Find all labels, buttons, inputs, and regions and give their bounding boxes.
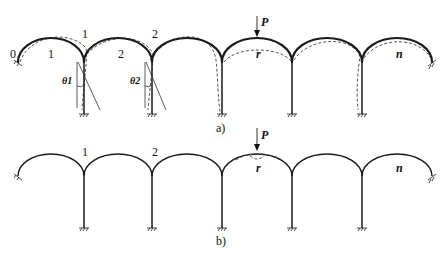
span-label-r: r bbox=[256, 161, 261, 175]
node-label-0: 0 bbox=[10, 47, 16, 61]
fixed-supports bbox=[14, 174, 436, 231]
angle-label-theta1: θ1 bbox=[62, 75, 72, 86]
arch-span-1 bbox=[18, 154, 84, 176]
span-label-n: n bbox=[396, 161, 403, 175]
arch-span-2 bbox=[84, 154, 152, 176]
fixed-support-icon bbox=[79, 114, 89, 117]
node-label-2: 2 bbox=[152, 145, 158, 159]
span-label-2: 2 bbox=[118, 47, 124, 61]
fixed-support-icon bbox=[217, 228, 227, 231]
columns bbox=[84, 62, 362, 114]
fixed-support-icon bbox=[79, 228, 89, 231]
fixed-support-icon bbox=[147, 114, 157, 117]
node-label-1: 1 bbox=[82, 27, 88, 41]
panel-a: 0 1 2 1 2 r n θ1 θ2 P a) bbox=[10, 15, 436, 135]
fixed-support-icon bbox=[357, 114, 367, 117]
span-label-n: n bbox=[396, 47, 403, 61]
angle-label-theta2: θ2 bbox=[130, 75, 140, 86]
arch-span-3 bbox=[152, 154, 222, 176]
local-deflection bbox=[250, 156, 264, 159]
node-label-1: 1 bbox=[82, 145, 88, 159]
load-label-p: P bbox=[261, 15, 269, 29]
fixed-support-icon bbox=[287, 114, 297, 117]
panel-caption-b: b) bbox=[216, 234, 226, 248]
fixed-support-icon bbox=[217, 114, 227, 117]
continuous-arch-frame-diagram: 0 1 2 1 2 r n θ1 θ2 P a) bbox=[0, 0, 443, 253]
arches bbox=[18, 38, 432, 62]
span-label-r: r bbox=[256, 47, 261, 61]
panel-b: 1 2 r n P b) bbox=[14, 128, 436, 248]
panel-caption-a: a) bbox=[216, 121, 225, 135]
arches bbox=[18, 154, 432, 176]
columns bbox=[84, 176, 362, 228]
local-deflection bbox=[236, 154, 282, 160]
load-arrow-icon bbox=[254, 128, 260, 151]
arch-span-5 bbox=[292, 38, 362, 62]
fixed-support-icon bbox=[287, 228, 297, 231]
fixed-support-icon bbox=[147, 228, 157, 231]
span-label-1: 1 bbox=[48, 47, 54, 61]
load-arrow-icon bbox=[254, 16, 260, 37]
load-label-p: P bbox=[261, 128, 269, 142]
arch-span-5 bbox=[292, 154, 362, 176]
deflected-shape bbox=[20, 37, 432, 112]
fixed-support-icon bbox=[357, 228, 367, 231]
node-label-2: 2 bbox=[152, 27, 158, 41]
arch-span-3 bbox=[152, 38, 222, 62]
